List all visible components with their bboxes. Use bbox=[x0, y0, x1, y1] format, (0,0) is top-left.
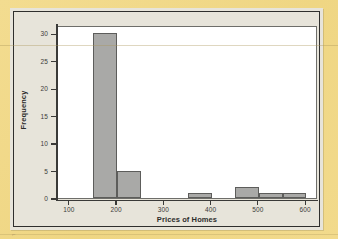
y-axis-tick bbox=[51, 143, 56, 144]
y-axis-tick-label: 30 bbox=[24, 30, 48, 37]
histogram-bar bbox=[188, 193, 212, 198]
y-axis-tick bbox=[51, 171, 56, 172]
x-axis-tick bbox=[68, 200, 69, 205]
y-axis-tick bbox=[51, 61, 56, 62]
histogram-bars bbox=[58, 27, 316, 198]
x-axis-tick-label: 300 bbox=[150, 206, 176, 213]
x-axis-tick bbox=[257, 200, 258, 205]
page-edge-mark: ⌐ bbox=[12, 231, 16, 237]
y-axis-tick bbox=[51, 34, 56, 35]
x-axis-tick bbox=[163, 200, 164, 205]
y-axis-tick-label: 5 bbox=[24, 168, 48, 175]
x-axis-title: Prices of Homes bbox=[57, 215, 317, 224]
scan-artifact-line-bottom bbox=[0, 234, 338, 235]
histogram-bar bbox=[283, 193, 307, 198]
x-axis-line bbox=[56, 200, 318, 202]
x-axis-tick-label: 600 bbox=[292, 206, 318, 213]
x-axis-tick bbox=[305, 200, 306, 205]
x-axis-tick-label: 400 bbox=[198, 206, 224, 213]
histogram-bar bbox=[259, 193, 283, 198]
x-axis-tick-label: 200 bbox=[103, 206, 129, 213]
y-axis-tick-label: 0 bbox=[24, 195, 48, 202]
histogram-bar bbox=[117, 171, 141, 198]
y-axis-tick-label: 25 bbox=[24, 58, 48, 65]
x-axis-tick bbox=[115, 200, 116, 205]
x-axis-tick-label: 500 bbox=[245, 206, 271, 213]
y-axis-title: Frequency bbox=[19, 70, 28, 150]
scanned-page-background: 051015202530 100200300400500600 Prices o… bbox=[0, 0, 338, 239]
figure-card: 051015202530 100200300400500600 Prices o… bbox=[10, 8, 323, 230]
histogram-bar bbox=[235, 187, 259, 198]
y-axis-tick bbox=[51, 198, 56, 199]
x-axis-tick-label: 100 bbox=[56, 206, 82, 213]
y-axis-tick bbox=[51, 89, 56, 90]
x-axis-tick bbox=[210, 200, 211, 205]
y-axis-line bbox=[56, 24, 58, 201]
histogram-bar bbox=[93, 33, 117, 198]
y-axis-tick bbox=[51, 116, 56, 117]
plot-panel bbox=[57, 26, 317, 199]
